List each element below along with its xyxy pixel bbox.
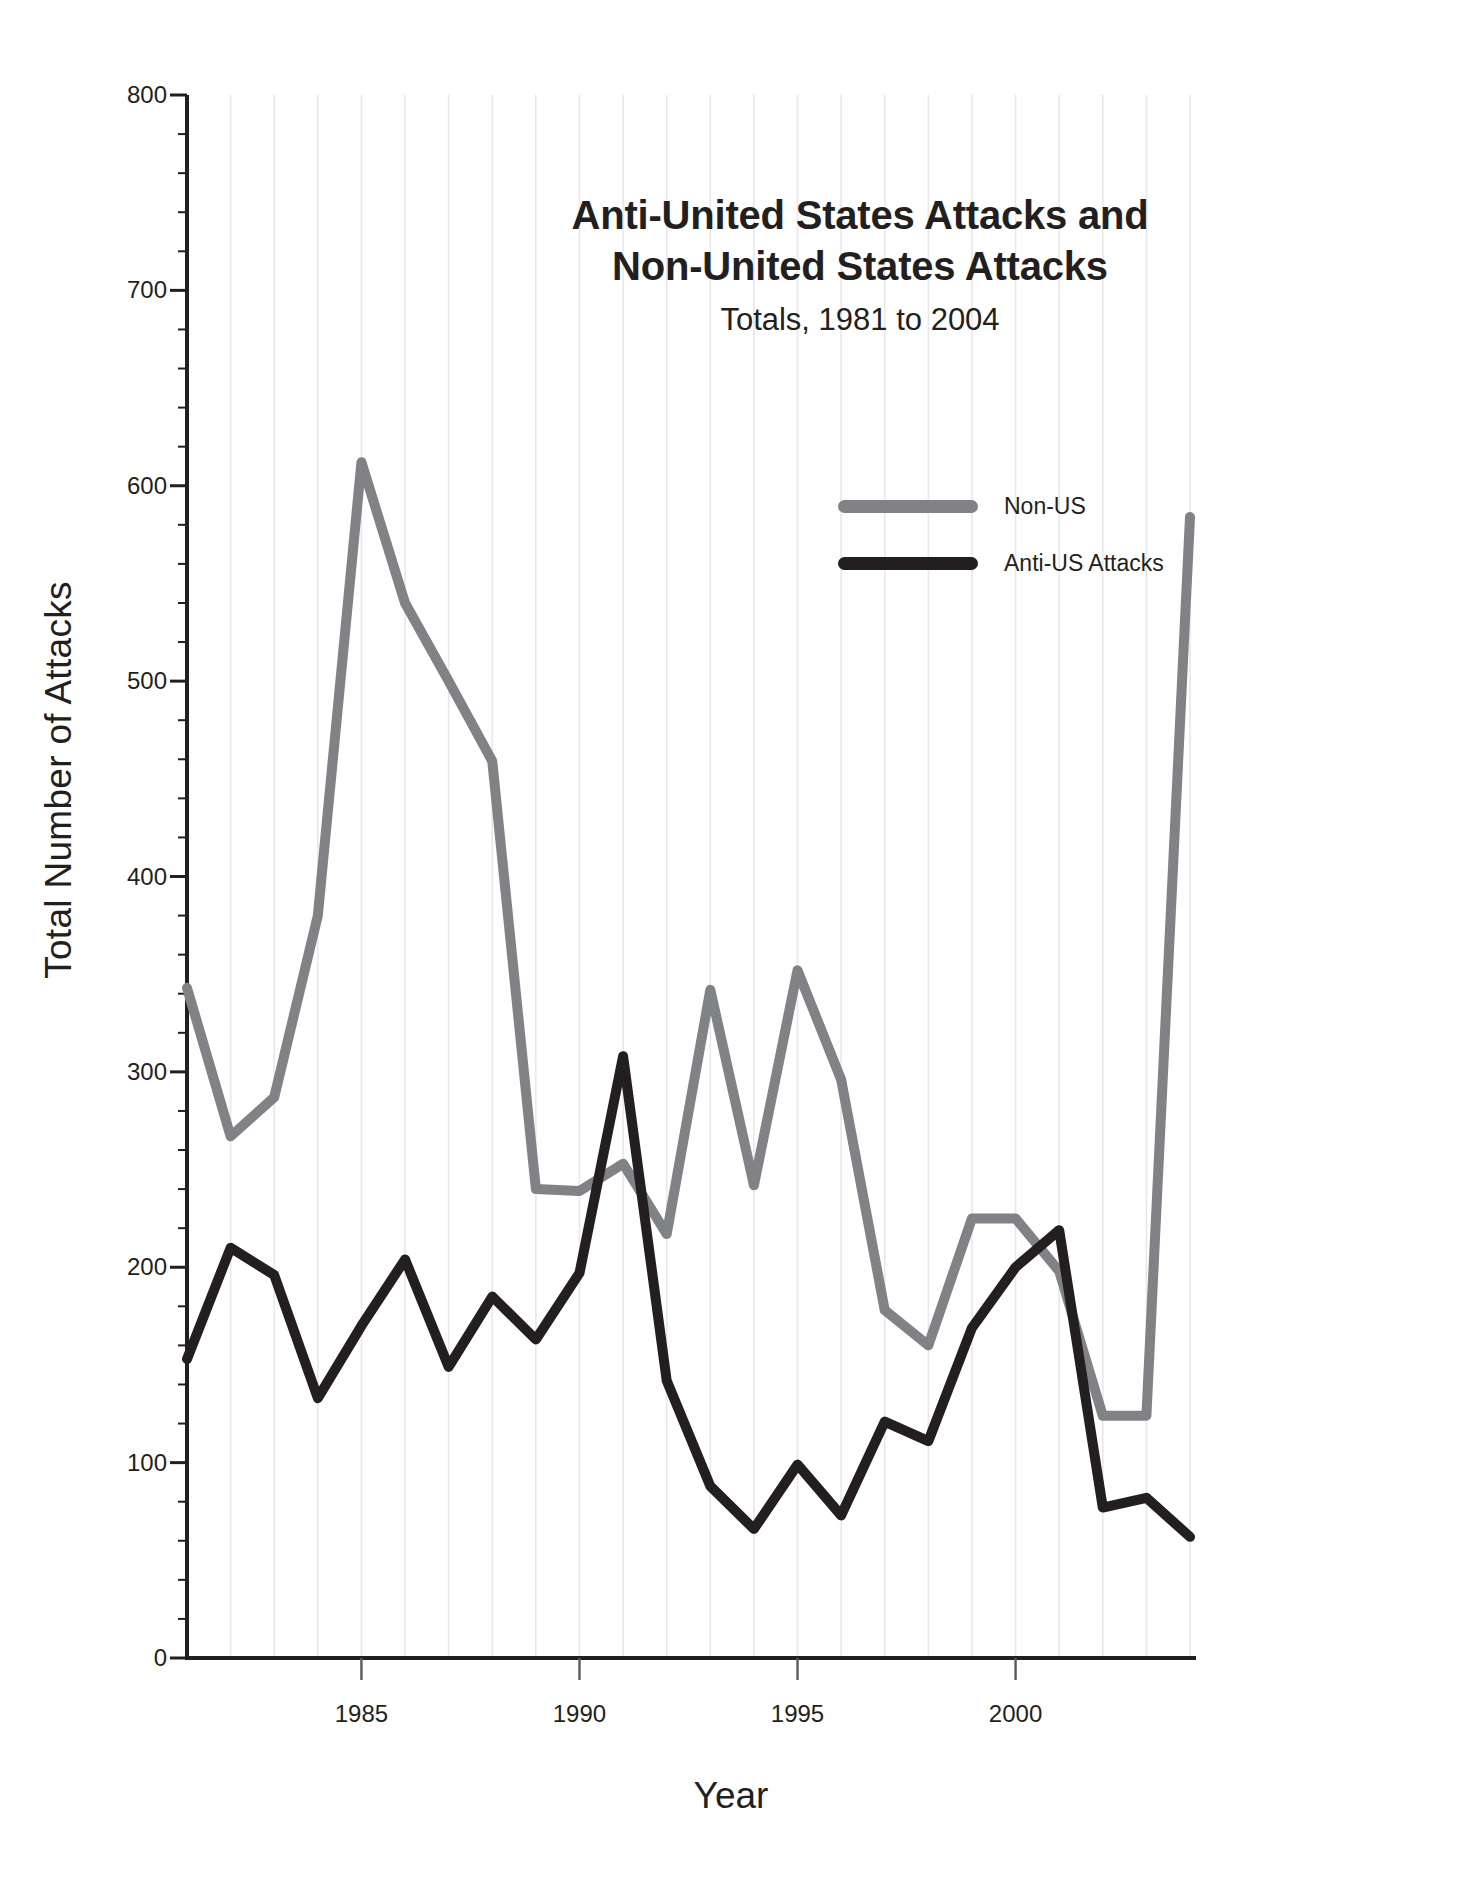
y-tick-label: 800 [95,81,167,109]
y-tick-label: 500 [95,667,167,695]
y-tick-label: 600 [95,472,167,500]
chart-figure: Total Number of Attacks Year Anti-United… [0,0,1462,1878]
axis-spine [187,95,1196,1658]
chart-legend: Non-US Anti-US Attacks [838,478,1188,592]
series-line-non-us [187,462,1190,1415]
x-tick-label: 1990 [553,1700,606,1728]
y-tick-label: 700 [95,276,167,304]
plot-area [0,0,1462,1878]
legend-item-anti-us: Anti-US Attacks [838,535,1188,592]
y-tick-label: 300 [95,1058,167,1086]
x-tick-label: 2000 [989,1700,1042,1728]
y-axis-label: Total Number of Attacks [38,180,98,1380]
legend-label-anti-us: Anti-US Attacks [1004,550,1164,577]
y-tick-label: 200 [95,1253,167,1281]
x-tick-label: 1995 [771,1700,824,1728]
x-tick-label: 1985 [335,1700,388,1728]
x-axis-label: Year [0,1775,1462,1817]
legend-item-non-us: Non-US [838,478,1188,535]
y-tick-label: 0 [95,1644,167,1672]
legend-swatch-anti-us [838,557,978,570]
legend-swatch-non-us [838,500,978,513]
y-tick-label: 400 [95,863,167,891]
y-tick-label: 100 [95,1449,167,1477]
legend-label-non-us: Non-US [1004,493,1086,520]
